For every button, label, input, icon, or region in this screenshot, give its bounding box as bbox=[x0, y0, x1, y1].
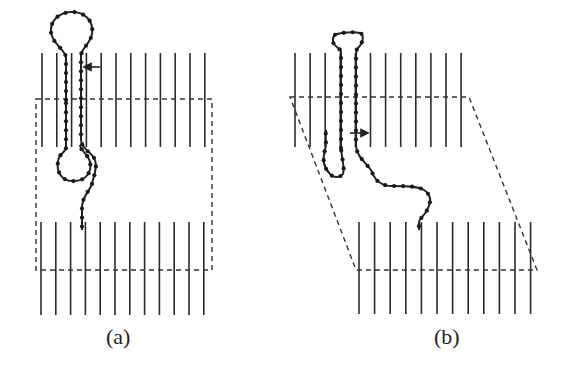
polymer-chain-a bbox=[51, 12, 96, 230]
bead bbox=[80, 142, 84, 146]
bead bbox=[331, 41, 335, 45]
bead bbox=[50, 22, 54, 26]
bead bbox=[79, 78, 83, 82]
bead bbox=[80, 147, 84, 151]
bead bbox=[80, 177, 84, 181]
panel-label-b: (b) bbox=[434, 324, 460, 349]
bead bbox=[324, 140, 328, 144]
bead bbox=[63, 11, 67, 15]
bead bbox=[354, 111, 358, 115]
bead bbox=[410, 185, 414, 189]
bead bbox=[63, 53, 67, 57]
bead bbox=[392, 184, 396, 188]
bead bbox=[64, 110, 68, 114]
bead bbox=[339, 92, 343, 96]
bead bbox=[339, 83, 343, 87]
bead bbox=[339, 128, 343, 132]
bead bbox=[354, 102, 358, 106]
bead bbox=[354, 66, 358, 70]
bead bbox=[80, 224, 84, 228]
bead bbox=[64, 128, 68, 132]
bead bbox=[88, 19, 92, 23]
bead bbox=[339, 149, 343, 153]
brush-bottom-lines-a bbox=[41, 222, 204, 315]
bead bbox=[339, 110, 343, 114]
bead bbox=[63, 177, 67, 181]
bead bbox=[72, 10, 76, 14]
bead bbox=[417, 224, 421, 228]
bead bbox=[58, 46, 62, 50]
bead bbox=[333, 33, 337, 37]
bead bbox=[90, 182, 94, 186]
bead bbox=[79, 69, 83, 73]
bead bbox=[86, 190, 90, 194]
bead bbox=[355, 48, 359, 52]
bead bbox=[322, 158, 326, 162]
bead bbox=[354, 138, 358, 142]
bead bbox=[401, 184, 405, 188]
bead bbox=[366, 164, 370, 168]
bead bbox=[339, 74, 343, 78]
brush-bottom-lines-b bbox=[359, 222, 531, 314]
bead bbox=[64, 137, 68, 141]
bead bbox=[354, 120, 358, 124]
bead bbox=[92, 156, 96, 160]
bead bbox=[64, 62, 68, 66]
bead bbox=[338, 47, 342, 51]
bead bbox=[79, 123, 83, 127]
bead bbox=[92, 173, 96, 177]
bead bbox=[64, 71, 68, 75]
bead bbox=[370, 171, 374, 175]
bead bbox=[354, 75, 358, 79]
bead bbox=[86, 171, 90, 175]
bead bbox=[360, 157, 364, 161]
bead bbox=[64, 80, 68, 84]
bead bbox=[64, 89, 68, 93]
bead bbox=[90, 27, 94, 31]
bead bbox=[351, 30, 355, 34]
bead bbox=[80, 206, 84, 210]
bead bbox=[81, 13, 85, 17]
bead bbox=[94, 164, 98, 168]
bead bbox=[324, 167, 328, 171]
bead bbox=[89, 36, 93, 40]
bead bbox=[324, 131, 328, 135]
bead bbox=[354, 129, 358, 133]
bead bbox=[79, 114, 83, 118]
bead bbox=[355, 149, 359, 153]
panel-b: (b) bbox=[290, 30, 537, 349]
bead bbox=[339, 137, 343, 141]
bead bbox=[323, 149, 327, 153]
bead bbox=[354, 93, 358, 97]
bead bbox=[339, 56, 343, 60]
panel-label-a: (a) bbox=[106, 324, 130, 349]
bead bbox=[354, 57, 358, 61]
bead bbox=[58, 153, 62, 157]
bead bbox=[55, 15, 59, 19]
bead bbox=[342, 31, 346, 35]
bead bbox=[85, 154, 89, 158]
bead bbox=[339, 119, 343, 123]
bead bbox=[79, 60, 83, 64]
bead bbox=[64, 146, 68, 150]
bead bbox=[49, 31, 53, 35]
bead bbox=[64, 119, 68, 123]
bead bbox=[79, 51, 83, 55]
brush-top-lines-b bbox=[295, 53, 461, 147]
bead bbox=[339, 65, 343, 69]
panel-a: (a) bbox=[36, 10, 212, 349]
bead bbox=[79, 105, 83, 109]
bead bbox=[425, 209, 429, 213]
bead bbox=[342, 166, 346, 170]
bead bbox=[419, 216, 423, 220]
bead bbox=[80, 215, 84, 219]
bead bbox=[79, 96, 83, 100]
bead bbox=[354, 84, 358, 88]
diagram-canvas: (a) (b) bbox=[0, 0, 566, 365]
bead bbox=[79, 132, 83, 136]
bead bbox=[428, 200, 432, 204]
dashed-box-a bbox=[36, 99, 212, 270]
bead bbox=[359, 32, 363, 36]
bead bbox=[340, 157, 344, 161]
bead bbox=[64, 101, 68, 105]
